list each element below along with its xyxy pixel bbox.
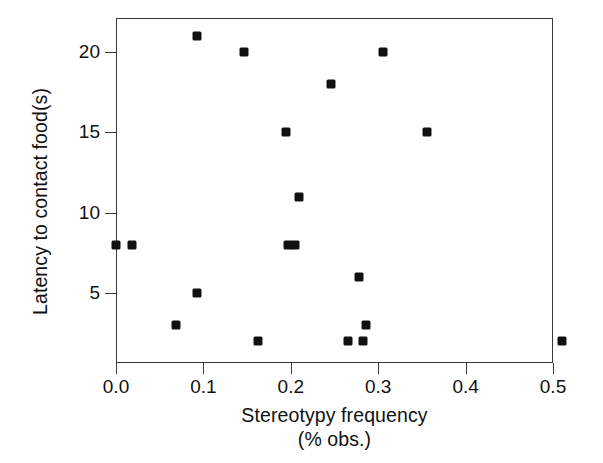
data-point [294,192,303,201]
data-point [193,31,202,40]
x-tick-mark [116,363,117,374]
data-point [282,128,291,137]
y-tick-label: 20 [44,41,100,63]
x-tick-label: 0.5 [518,376,588,398]
y-tick-mark [105,52,116,53]
x-axis-title: Stereotypy frequency (% obs.) [116,403,553,452]
y-tick-label: 15 [44,121,100,143]
x-tick-label: 0.2 [256,376,326,398]
x-tick-mark [553,363,554,374]
x-tick-mark [203,363,204,374]
data-point [193,289,202,298]
data-point [291,240,300,249]
x-tick-mark [466,363,467,374]
y-tick-mark [105,132,116,133]
data-point [253,337,262,346]
data-point [343,337,352,346]
x-axis-title-line-1: Stereotypy frequency [241,404,427,426]
x-tick-label: 0.3 [343,376,413,398]
y-axis-title: Latency to contact food(s) [29,22,52,382]
y-tick-mark [105,293,116,294]
data-point [172,321,181,330]
data-point [359,337,368,346]
scatter-plot-figure: 5101520 0.00.10.20.30.40.5 Latency to co… [0,0,603,463]
plot-area [116,18,553,363]
data-point [112,240,121,249]
x-tick-label: 0.4 [431,376,501,398]
data-point [354,272,363,281]
data-point [327,80,336,89]
y-tick-label: 10 [44,202,100,224]
x-axis-title-line-2: (% obs.) [116,427,553,451]
data-point [239,47,248,56]
x-tick-label: 0.0 [81,376,151,398]
data-point [361,321,370,330]
data-point [379,47,388,56]
data-point [127,240,136,249]
data-point [557,337,566,346]
y-tick-label: 5 [44,282,100,304]
x-tick-mark [378,363,379,374]
y-tick-mark [105,213,116,214]
x-tick-mark [291,363,292,374]
data-point [423,128,432,137]
x-tick-label: 0.1 [168,376,238,398]
